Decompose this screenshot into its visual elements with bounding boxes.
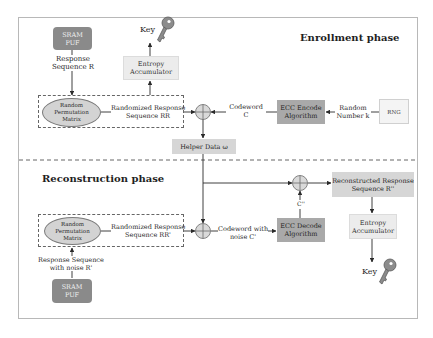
xor-reconstruct-output xyxy=(293,176,308,191)
connector-lines xyxy=(0,0,433,338)
xor-enroll xyxy=(196,105,211,120)
xor-reconstruct-input xyxy=(196,224,211,239)
